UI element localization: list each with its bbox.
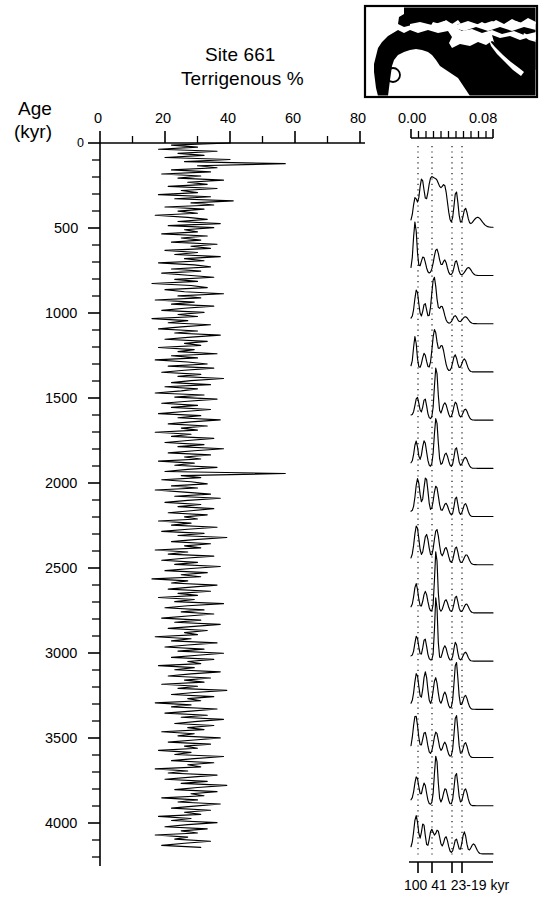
left-panel-axes (88, 131, 365, 866)
spectrum-trace-11 (411, 663, 493, 710)
spectrum-trace-8 (411, 526, 493, 565)
evolutive-spectra-stack (411, 177, 493, 854)
figure-canvas (0, 0, 553, 908)
terrigenous-percent-trace (152, 143, 285, 847)
figure-root: Site 661 Terrigenous % Age (kyr) 0 20 40… (0, 0, 553, 908)
spectrum-trace-10 (411, 598, 493, 661)
spectrum-trace-5 (411, 368, 493, 420)
spectrum-trace-12 (411, 716, 493, 758)
y-minor-ticks (92, 160, 100, 857)
spectrum-trace-13 (411, 756, 493, 805)
spec-minor-ticks-top (419, 131, 487, 138)
africa-locator-map (365, 6, 537, 97)
spectrum-trace-3 (411, 277, 493, 323)
